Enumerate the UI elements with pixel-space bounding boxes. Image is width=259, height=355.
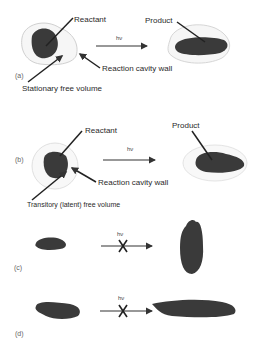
free-volume-label-a: Stationary free volume (22, 84, 102, 93)
cavity-wall-pointer-a (80, 54, 100, 68)
product-blob-d (152, 300, 236, 317)
reactant-blob-a (32, 29, 58, 59)
cavity-wall-label-a: Reaction cavity wall (102, 64, 172, 73)
panel-label-c: (c) (14, 264, 22, 271)
free-volume-label-b: Transitory (latent) free volume (27, 200, 120, 209)
product-blob-c (180, 220, 203, 274)
panel-label-d: (d) (15, 330, 24, 337)
reactant-label-a: Reactant (74, 15, 106, 24)
panel-b (32, 131, 247, 200)
product-label-a: Product (145, 16, 173, 25)
product-label-b: Product (172, 121, 200, 130)
panel-label-b: (b) (15, 156, 24, 163)
panel-c (35, 220, 203, 274)
reactant-label-b: Reactant (85, 126, 117, 135)
hv-label-a: hν (116, 35, 122, 41)
cavity-wall-label-b: Reaction cavity wall (98, 178, 168, 187)
panel-label-a: (a) (15, 72, 24, 79)
reactant-blob-d (35, 302, 79, 319)
hv-label-d: hν (118, 295, 124, 301)
panel-d (35, 300, 235, 319)
hv-label-b: hν (127, 146, 133, 152)
hv-label-c: hν (117, 231, 123, 237)
reactant-blob-c (35, 238, 66, 250)
